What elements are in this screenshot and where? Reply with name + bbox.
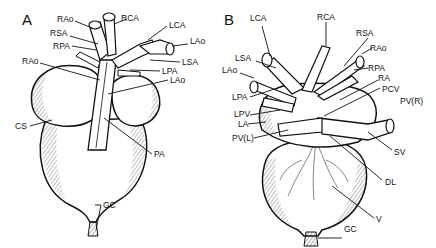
label-a-cs: CS (15, 122, 27, 131)
panel-letter-a: A (22, 11, 32, 28)
label-b-la: LA (238, 120, 248, 129)
label-a-rsa: RSA (50, 29, 67, 38)
label-b-lpa: LPA (232, 93, 247, 102)
label-a-rao-top: RAo (57, 15, 74, 24)
label-b-gc: GC (344, 225, 357, 234)
label-b-rsa: RSA (356, 29, 373, 38)
label-a-lao-mid: LAo (170, 76, 185, 85)
label-b-pvr: PV(R) (400, 97, 423, 106)
label-a-rpa: RPA (53, 42, 70, 51)
label-b-dl: DL (385, 178, 396, 187)
panel-letter-b: B (224, 11, 234, 28)
label-a-rao-side: RAo (22, 57, 39, 66)
label-b-pvl: PV(L) (232, 134, 254, 143)
label-a-gc: GC (103, 201, 116, 210)
heart-a-illustration (0, 0, 218, 248)
label-b-rao: RAo (370, 44, 387, 53)
label-a-lca: LCA (169, 21, 186, 30)
label-b-lca: LCA (250, 14, 267, 23)
label-b-ra: RA (378, 74, 390, 83)
heart-b-illustration (218, 0, 436, 248)
label-b-lsa: LSA (235, 54, 251, 63)
label-b-sv: SV (394, 148, 405, 157)
label-b-lpv: LPV (234, 110, 250, 119)
panel-b-heart-dorsal-view: B LCA RCA RSA RAo LSA LAo RPA RA PCV LPA… (218, 0, 436, 248)
label-b-pcv: PCV (382, 85, 399, 94)
label-a-lao-top: LAo (190, 37, 205, 46)
label-b-rpa: RPA (368, 64, 385, 73)
label-b-lao: LAo (222, 66, 237, 75)
label-a-rca: RCA (121, 14, 139, 23)
label-b-rca: RCA (317, 13, 335, 22)
label-a-lsa: LSA (182, 58, 198, 67)
label-b-v: V (376, 215, 382, 224)
panel-a-heart-ventral-view: A RAo RCA LCA RSA LAo RPA LSA RAo LPA LA… (0, 0, 218, 248)
label-a-pa: PA (154, 150, 165, 159)
